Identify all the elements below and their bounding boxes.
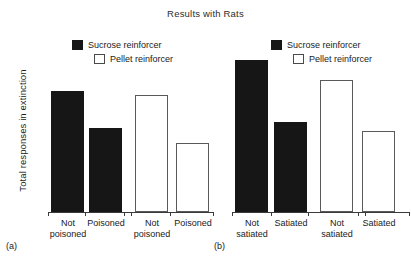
bar-b-3 (320, 80, 353, 212)
x-axis-line-b (232, 212, 410, 213)
panel-tag-a: (a) (6, 241, 17, 251)
x-label-line: poisoned (42, 229, 94, 240)
panel-a: Sucrose reinforcer Pellet reinforcer Not… (0, 0, 215, 264)
x-label-a-2: Poisoned (80, 218, 132, 229)
legend-label-pellet: Pellet reinforcer (110, 54, 173, 64)
x-label-line: satiated (226, 229, 278, 240)
panel-tag-b: (b) (214, 241, 225, 251)
x-label-line: Satiated (265, 218, 317, 229)
sucrose-swatch-icon (72, 40, 83, 50)
sucrose-swatch-icon (271, 40, 282, 50)
pellet-swatch-icon (293, 54, 304, 64)
x-label-b-2: Satiated (265, 218, 317, 229)
axis-tick (85, 212, 86, 216)
axis-tick (365, 212, 366, 216)
axis-tick (232, 212, 233, 216)
axis-tick (271, 212, 272, 216)
legend-item-pellet: Pellet reinforcer (72, 52, 173, 66)
axis-tick (170, 212, 171, 216)
legend-item-pellet: Pellet reinforcer (271, 52, 372, 66)
axis-tick (48, 212, 49, 216)
legend-panel-a: Sucrose reinforcer Pellet reinforcer (72, 38, 173, 66)
x-label-line: Satiated (353, 218, 405, 229)
bar-a-2 (89, 128, 122, 212)
legend-label-pellet: Pellet reinforcer (309, 54, 372, 64)
bar-b-4 (362, 131, 395, 212)
legend-label-sucrose: Sucrose reinforcer (287, 40, 361, 50)
x-label-b-4: Satiated (353, 218, 405, 229)
axis-tick (409, 212, 410, 216)
legend-panel-b: Sucrose reinforcer Pellet reinforcer (271, 38, 372, 66)
legend-label-sucrose: Sucrose reinforcer (88, 40, 162, 50)
x-label-line: poisoned (126, 229, 178, 240)
bar-a-4 (176, 143, 209, 212)
legend-item-sucrose: Sucrose reinforcer (271, 38, 372, 52)
axis-tick (131, 212, 132, 216)
chart-figure: Results with Rats Total responses in ext… (0, 0, 411, 264)
bar-a-1 (51, 91, 84, 212)
panel-b: Sucrose reinforcer Pellet reinforcer Not… (212, 0, 411, 264)
x-label-line: Poisoned (80, 218, 132, 229)
x-label-line: satiated (311, 229, 363, 240)
bar-b-1 (235, 60, 268, 212)
legend-item-sucrose: Sucrose reinforcer (72, 38, 173, 52)
axis-tick (308, 212, 309, 216)
axis-tick (358, 212, 359, 216)
bar-b-2 (274, 122, 307, 212)
bar-a-3 (135, 95, 168, 212)
axis-tick (124, 212, 125, 216)
pellet-swatch-icon (94, 54, 105, 64)
